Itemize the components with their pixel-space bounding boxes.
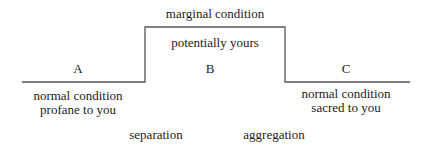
c-desc-line2: sacred to you — [296, 101, 396, 115]
top-label: marginal condition — [145, 7, 285, 21]
phase-b-label: B — [170, 62, 250, 76]
middle-label: potentially yours — [145, 36, 285, 50]
c-desc-line1: normal condition — [296, 87, 396, 101]
a-desc-line2: profane to you — [28, 103, 128, 117]
phase-a-label: A — [38, 62, 118, 76]
a-desc-line1: normal condition — [28, 89, 128, 103]
separation-label: separation — [116, 128, 196, 142]
phase-c-label: C — [306, 62, 386, 76]
aggregation-label: aggregation — [234, 128, 314, 142]
